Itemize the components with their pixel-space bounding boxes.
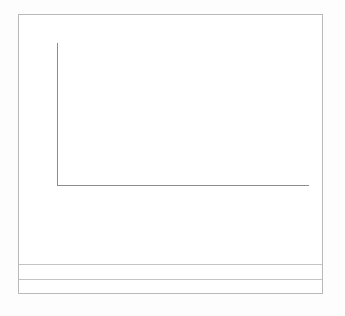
x-axis-labels xyxy=(57,188,309,204)
source-divider xyxy=(19,264,322,265)
chart-page xyxy=(0,0,345,316)
plot-wrapper xyxy=(33,39,315,204)
footer-divider xyxy=(19,279,322,280)
plot-area xyxy=(57,43,309,186)
chart-card xyxy=(18,14,323,294)
line-series-group xyxy=(58,43,309,185)
